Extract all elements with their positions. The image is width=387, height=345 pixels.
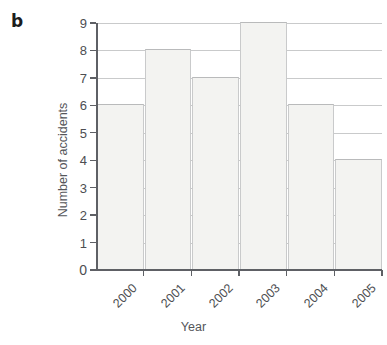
bar [145, 49, 192, 269]
x-axis-tick-label: 2004 [301, 281, 331, 311]
y-axis-tick-label: 4 [80, 153, 87, 168]
x-axis-tick-label: 2003 [254, 281, 284, 311]
x-axis-tick [334, 270, 335, 276]
gridline [96, 23, 382, 24]
y-axis-tick-label: 8 [80, 43, 87, 58]
bar [97, 104, 144, 269]
plot-area: 0123456789 200020012002200320042005 [96, 23, 382, 270]
x-axis-tick [191, 270, 192, 276]
bar [288, 104, 335, 269]
x-axis-tick-label: 2000 [111, 281, 141, 311]
y-axis-tick-label: 6 [80, 98, 87, 113]
x-axis-tick-label: 2002 [206, 281, 236, 311]
y-axis-tick-label: 2 [80, 208, 87, 223]
x-axis-tick [381, 270, 382, 276]
x-axis-tick [286, 270, 287, 276]
y-axis-tick-label: 9 [80, 16, 87, 31]
x-axis-tick [143, 270, 144, 276]
x-axis-line [96, 269, 382, 271]
panel-label: b [11, 13, 23, 30]
figure-panel-b: b Number of accidents 0123456789 2000200… [0, 0, 387, 345]
y-axis-tick-label: 5 [80, 125, 87, 140]
x-axis-tick-label: 2005 [349, 281, 379, 311]
bar [192, 77, 239, 269]
y-axis-title-container: Number of accidents [52, 60, 74, 260]
y-axis-tick-label: 1 [80, 235, 87, 250]
y-axis-line [96, 23, 98, 270]
y-axis-tick-label: 7 [80, 70, 87, 85]
gridline [96, 50, 382, 51]
x-axis-tick [238, 270, 239, 276]
bar [335, 159, 382, 269]
y-axis-tick-label: 3 [80, 180, 87, 195]
y-axis-tick-label: 0 [79, 262, 87, 278]
bar [240, 22, 287, 269]
y-axis-title: Number of accidents [56, 103, 70, 218]
x-axis-tick-label: 2001 [158, 281, 188, 311]
gridline [96, 78, 382, 79]
x-axis-title: Year [0, 320, 387, 334]
